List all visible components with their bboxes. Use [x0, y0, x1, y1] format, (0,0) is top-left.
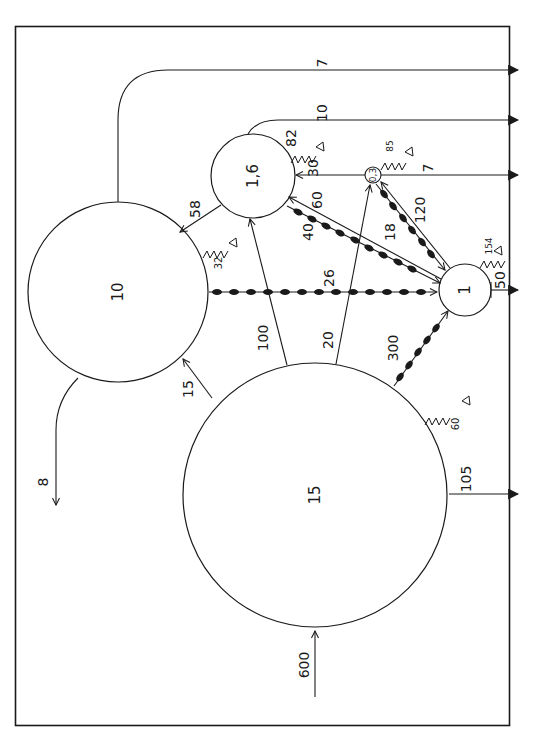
zigzag-icon	[480, 261, 505, 268]
node-label: 1,6	[244, 164, 262, 188]
flow-label: 100	[255, 325, 271, 352]
flow-58: 58	[180, 200, 221, 232]
flow-label: 26	[321, 269, 337, 287]
flow-50: 50	[491, 271, 518, 298]
flow-label: 105	[458, 466, 474, 493]
triangle-icon	[462, 396, 470, 405]
flow-label: 300	[385, 335, 401, 362]
respiration-label: 82	[283, 129, 299, 147]
node-label: 1	[456, 285, 474, 295]
zigzag-icon	[381, 163, 406, 170]
flow-label: 120	[412, 197, 428, 224]
flow-label: 10	[314, 104, 330, 122]
flow-26-beaded: 26	[209, 269, 437, 295]
flow-label: 50	[492, 271, 508, 289]
diagram-frame	[16, 27, 510, 726]
respiration-60: 60	[425, 396, 470, 430]
flow-600: 600	[296, 631, 315, 697]
respiration-32: 32	[203, 238, 237, 269]
node-1: 1	[439, 264, 491, 316]
zigzag-icon	[425, 418, 450, 425]
flow-label: 18	[382, 223, 398, 241]
node-10: 10	[28, 202, 208, 382]
energy-flow-diagram: 15 10 1,6 0,3 1 600 105 15 100 20	[0, 0, 542, 740]
respiration-label: 32	[213, 257, 224, 270]
flow-label: 58	[187, 200, 203, 218]
respiration-82: 82	[283, 129, 324, 163]
triangle-icon	[494, 246, 502, 255]
flow-label: 8	[35, 478, 51, 487]
triangle-icon	[229, 238, 237, 247]
flow-30: 30	[296, 159, 365, 177]
respiration-85: 85	[381, 140, 413, 170]
bead-chain	[395, 322, 442, 383]
flow-15: 15	[180, 359, 212, 398]
flow-label: 15	[180, 380, 196, 398]
respiration-label: 85	[385, 140, 395, 151]
flow-105: 105	[449, 466, 518, 494]
flow-label: 7	[420, 164, 436, 173]
node-0-3: 0,3	[365, 167, 381, 183]
flow-label: 20	[320, 331, 336, 349]
node-label: 10	[109, 282, 127, 301]
respiration-label: 60	[450, 418, 461, 431]
flow-300-beaded: 300	[385, 311, 448, 386]
triangle-icon	[405, 147, 413, 156]
flow-label: 7	[314, 59, 330, 68]
respiration-154: 154	[480, 237, 505, 268]
node-15: 15	[183, 363, 447, 627]
node-label: 15	[306, 485, 324, 504]
triangle-icon	[316, 142, 324, 151]
flow-label: 600	[296, 652, 312, 679]
flow-label: 40	[300, 223, 316, 241]
flow-8: 8	[35, 378, 78, 505]
respiration-label: 154	[484, 237, 494, 254]
flow-7-top: 7	[118, 59, 518, 202]
node-label: 0,3	[368, 168, 378, 182]
flow-label: 60	[309, 191, 325, 209]
